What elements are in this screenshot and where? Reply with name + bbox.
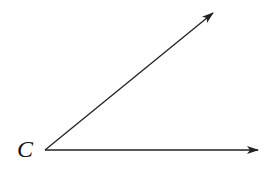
angle-diagram [0,0,278,181]
vertex-label-c: C [17,136,33,162]
upper-ray-arrow [45,13,213,150]
